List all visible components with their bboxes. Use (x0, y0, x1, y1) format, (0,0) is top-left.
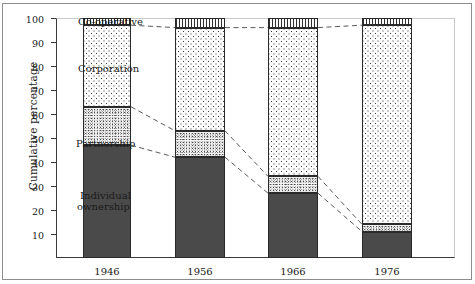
bar-1956[interactable] (175, 18, 225, 258)
y-tick-label-90: 90 (32, 38, 44, 49)
y-tick-40: 40 (51, 162, 56, 163)
label-cooperative: Co-operative (78, 16, 143, 27)
y-tick-100: 100 (51, 18, 56, 19)
x-tick-label-1976: 1976 (374, 266, 399, 277)
y-tick-label-40: 40 (32, 158, 44, 169)
y-tick-label-10: 10 (32, 230, 44, 241)
y-tick-label-30: 30 (32, 182, 44, 193)
segment-cooperative-1976[interactable] (362, 18, 412, 25)
label-partnership: Partnership (76, 138, 135, 149)
y-tick-label-60: 60 (32, 110, 44, 121)
y-tick-label-50: 50 (32, 134, 44, 145)
x-tick-label-1966: 1966 (280, 266, 305, 277)
segment-individual-1976[interactable] (362, 232, 412, 258)
y-tick-50: 50 (51, 138, 56, 139)
segment-partnership-1956[interactable] (175, 131, 225, 157)
y-tick-80: 80 (51, 66, 56, 67)
label-individual-ownership-line2: ownership (77, 201, 130, 212)
segment-cooperative-1956[interactable] (175, 18, 225, 28)
bar-1966[interactable] (268, 18, 318, 258)
plot-area: 100 90 80 70 60 50 40 30 20 10 (56, 18, 455, 258)
segment-individual-1966[interactable] (268, 193, 318, 258)
segment-partnership-1976[interactable] (362, 224, 412, 231)
label-individual-ownership-line1: Individual (80, 190, 131, 201)
y-tick-60: 60 (51, 114, 56, 115)
y-tick-label-100: 100 (26, 14, 44, 25)
segment-partnership-1966[interactable] (268, 176, 318, 193)
y-tick-70: 70 (51, 90, 56, 91)
y-tick-10: 10 (51, 234, 56, 235)
x-tick-label-1956: 1956 (187, 266, 212, 277)
y-tick-20: 20 (51, 210, 56, 211)
figure: Cumulative percentage 100 90 80 70 60 50… (0, 0, 475, 284)
y-tick-30: 30 (51, 186, 56, 187)
segment-individual-1956[interactable] (175, 157, 225, 258)
y-tick-label-20: 20 (32, 206, 44, 217)
y-axis-title: Cumulative percentage (27, 31, 39, 221)
y-tick-label-80: 80 (32, 62, 44, 73)
segment-corporation-1966[interactable] (268, 28, 318, 177)
y-tick-label-70: 70 (32, 86, 44, 97)
segment-corporation-1956[interactable] (175, 28, 225, 131)
segment-cooperative-1966[interactable] (268, 18, 318, 28)
x-tick-label-1946: 1946 (94, 266, 119, 277)
segment-corporation-1976[interactable] (362, 25, 412, 224)
label-corporation: Corporation (78, 63, 139, 74)
y-tick-90: 90 (51, 42, 56, 43)
bar-1976[interactable] (362, 18, 412, 258)
